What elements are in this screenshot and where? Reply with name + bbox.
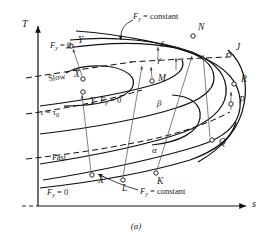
- label-beta: β: [157, 98, 161, 108]
- label-alpha: α: [152, 145, 157, 155]
- figure-caption: (a): [0, 221, 272, 231]
- label-point-P: P: [239, 95, 245, 105]
- label-point-M: M: [158, 73, 166, 83]
- fy-zero-mid-rest: = 0: [108, 95, 121, 105]
- fy-const-bot-rest: = constant: [148, 186, 185, 196]
- label-point-R: R: [241, 74, 247, 84]
- label-point-K: K: [157, 176, 163, 186]
- label-point-Y-upper: Y: [78, 35, 83, 45]
- label-gamma: γ: [157, 54, 161, 64]
- x-axis-label: s: [252, 198, 256, 209]
- label-delta: δ: [160, 39, 164, 49]
- label-point-J: J: [236, 42, 240, 52]
- y-axis-label: T: [22, 18, 28, 29]
- label-point-X-lower: X: [98, 175, 104, 185]
- label-slow-branch: Slow: [47, 71, 66, 83]
- label-fast-branch: Fast: [52, 152, 66, 162]
- label-fy-zero-top: Fy = 0: [50, 40, 71, 51]
- label-point-L: L: [122, 183, 127, 193]
- fy-zero-top-rest: = 0: [58, 40, 71, 50]
- label-fy-zero-middle: Fy = 0: [100, 95, 121, 106]
- fy-const-top-rest: = constant: [141, 11, 178, 21]
- label-tau-equals-tau0: τ = τ0: [40, 107, 59, 118]
- fy-zero-bot-rest: = 0: [55, 187, 68, 197]
- label-point-Q: Q: [219, 137, 226, 147]
- label-fy-zero-bottom: Fy = 0: [47, 187, 68, 198]
- label-fy-constant-top: Fy = constant: [133, 11, 178, 22]
- label-point-Y-lower: Y: [90, 96, 95, 106]
- label-point-N: N: [198, 22, 204, 32]
- label-point-X-upper: X: [74, 69, 80, 79]
- tau0-sub: 0: [56, 111, 59, 118]
- label-fy-constant-bottom: Fy = constant: [140, 186, 185, 197]
